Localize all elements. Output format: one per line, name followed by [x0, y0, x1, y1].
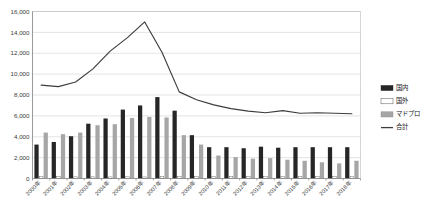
bar-madpro	[199, 145, 203, 179]
bar-madpro	[130, 118, 134, 179]
bar-domestic	[52, 142, 56, 179]
bar-domestic	[259, 147, 263, 179]
bar-domestic	[34, 145, 38, 179]
bar-domestic	[138, 105, 142, 178]
chart-container: 02,0004,0006,0008,00010,00012,00014,0001…	[0, 0, 437, 209]
y-tick-label: 4,000	[14, 133, 30, 140]
y-tick-label: 16,000	[11, 8, 30, 15]
legend-label: マドプロ	[396, 110, 420, 117]
y-tick-label: 6,000	[14, 112, 30, 119]
y-tick-label: 2,000	[14, 154, 30, 161]
y-tick-label: 10,000	[11, 70, 30, 77]
bar-madpro	[268, 158, 272, 178]
bar-domestic	[69, 136, 73, 178]
legend-swatch-foreign	[381, 99, 393, 104]
bar-madpro	[320, 162, 324, 178]
bar-domestic	[155, 97, 159, 178]
bar-domestic	[103, 118, 107, 178]
bar-madpro	[182, 135, 186, 178]
y-axis-tick-labels: 02,0004,0006,0008,00010,00012,00014,0001…	[11, 8, 30, 182]
bar-madpro	[303, 161, 307, 179]
y-tick-label: 0	[26, 175, 30, 182]
bar-domestic	[190, 135, 194, 178]
bar-domestic	[242, 148, 246, 178]
bar-madpro	[44, 133, 48, 179]
legend-label: 合計	[396, 122, 409, 131]
y-tick-label: 12,000	[11, 49, 30, 56]
bar-madpro	[216, 156, 220, 179]
bar-madpro	[354, 161, 358, 179]
bar-domestic	[293, 147, 297, 178]
bar-madpro	[337, 163, 341, 178]
legend-label: 国外	[396, 96, 409, 105]
combo-bar-line-chart: 02,0004,0006,0008,00010,00012,00014,0001…	[0, 0, 437, 209]
bar-domestic	[173, 111, 177, 179]
y-tick-label: 8,000	[14, 91, 30, 98]
bar-domestic	[224, 147, 228, 178]
bar-madpro	[164, 117, 168, 178]
bar-domestic	[311, 147, 315, 178]
bar-madpro	[61, 134, 65, 178]
bar-madpro	[147, 117, 151, 179]
legend-swatch-madpro	[381, 112, 393, 117]
bar-madpro	[234, 157, 238, 178]
bar-domestic	[86, 124, 90, 179]
bar-madpro	[113, 124, 117, 178]
bar-domestic	[276, 148, 280, 179]
legend-label: 国内	[396, 83, 408, 92]
legend-swatch-domestic	[381, 85, 393, 90]
bar-madpro	[251, 159, 255, 179]
bar-domestic	[328, 147, 332, 178]
bar-domestic	[121, 110, 125, 179]
bar-madpro	[95, 125, 99, 178]
bar-madpro	[285, 160, 289, 179]
y-tick-label: 14,000	[11, 29, 30, 36]
bar-domestic	[345, 147, 349, 178]
bar-madpro	[78, 133, 82, 179]
bar-domestic	[207, 147, 211, 178]
